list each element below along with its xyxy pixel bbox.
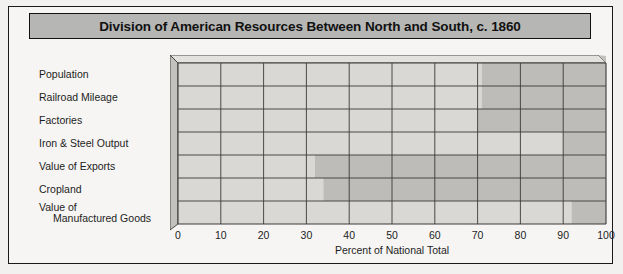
category-labels: PopulationRailroad MileageFactoriesIron … xyxy=(39,55,164,216)
row-label-line1: Factories xyxy=(39,114,82,126)
x-tick-30: 30 xyxy=(301,229,313,241)
x-tick-70: 70 xyxy=(472,229,484,241)
x-tick-20: 20 xyxy=(258,229,270,241)
row-label-value-of: Value ofManufactured Goods xyxy=(39,202,164,224)
x-tick-80: 80 xyxy=(515,229,527,241)
row-label-line1: Iron & Steel Output xyxy=(39,137,128,149)
x-axis-label-text: Percent of National Total xyxy=(335,244,449,256)
figure-frame: Division of American Resources Between N… xyxy=(8,6,613,264)
x-tick-60: 60 xyxy=(429,229,441,241)
plot-area: PopulationRailroad MileageFactoriesIron … xyxy=(9,7,614,265)
row-label-population: Population xyxy=(39,69,164,80)
x-tick-100: 100 xyxy=(597,229,615,241)
row-label-line1: Value of xyxy=(39,201,77,213)
row-label-line1: Value of Exports xyxy=(39,160,115,172)
row-label-iron-steel-output: Iron & Steel Output xyxy=(39,138,164,149)
x-tick-10: 10 xyxy=(215,229,227,241)
row-label-line1: Cropland xyxy=(39,183,82,195)
row-label-cropland: Cropland xyxy=(39,184,164,195)
row-label-factories: Factories xyxy=(39,115,164,126)
chart-grid-svg xyxy=(170,55,610,234)
row-label-line1: Population xyxy=(39,68,89,80)
x-tick-40: 40 xyxy=(343,229,355,241)
x-tick-50: 50 xyxy=(386,229,398,241)
x-tick-0: 0 xyxy=(175,229,181,241)
row-label-railroad-mileage: Railroad Mileage xyxy=(39,92,164,103)
x-axis-label: Percent of National Total xyxy=(9,244,614,256)
chart-grid xyxy=(170,55,610,234)
row-label-line1: Railroad Mileage xyxy=(39,91,118,103)
x-tick-90: 90 xyxy=(557,229,569,241)
row-label-value-of-exports: Value of Exports xyxy=(39,161,164,172)
row-label-line2: Manufactured Goods xyxy=(39,213,164,224)
